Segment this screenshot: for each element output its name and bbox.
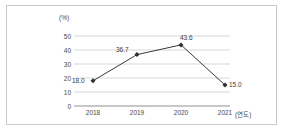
chart-figure: (%) 50 40 30 20 10 0 [0, 0, 283, 132]
plot-area: (%) 50 40 30 20 10 0 [0, 0, 283, 132]
data-label-2021: 15.0 [229, 81, 242, 88]
x-tick-label-2018: 2018 [78, 109, 108, 116]
data-label-2019: 36.7 [116, 46, 129, 53]
data-markers-series-0 [91, 42, 228, 87]
x-tick-label-2020: 2020 [166, 109, 196, 116]
x-tick-label-2019: 2019 [122, 109, 152, 116]
data-label-2018: 18.0 [72, 77, 85, 84]
data-label-2020: 43.6 [180, 34, 193, 41]
gridlines [74, 36, 230, 92]
x-axis-unit-label: (연도) [235, 109, 251, 119]
data-line-series-0 [93, 45, 225, 85]
